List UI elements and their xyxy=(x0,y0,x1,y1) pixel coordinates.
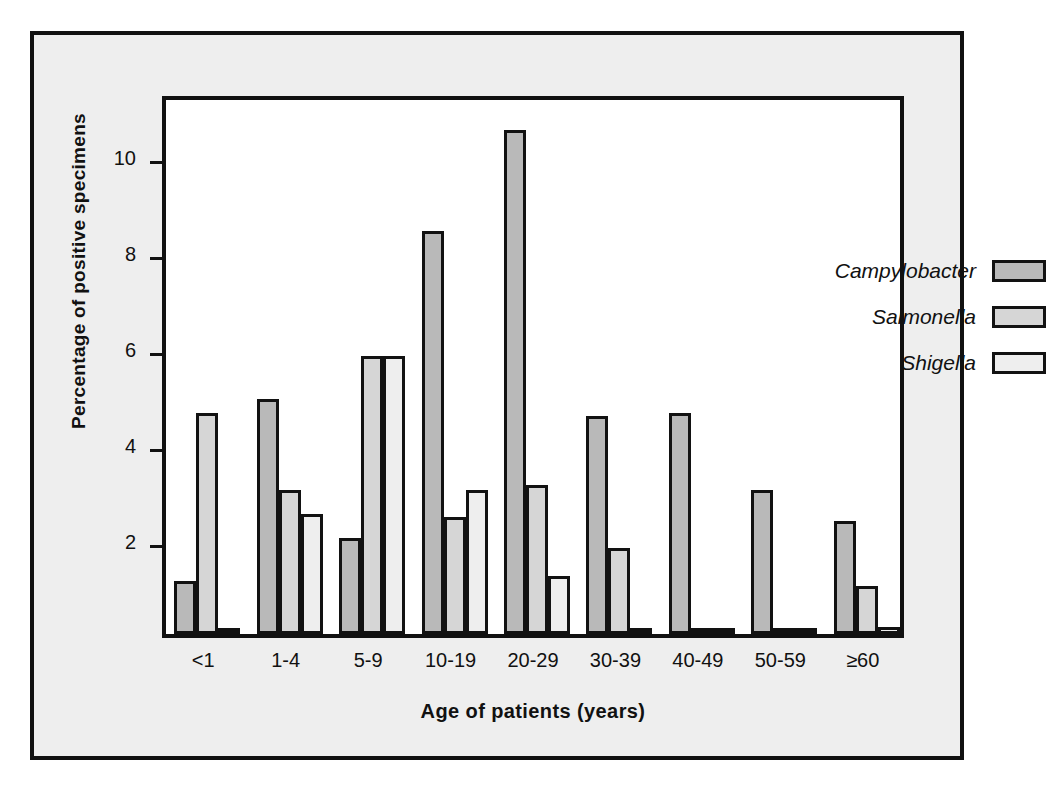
bar xyxy=(444,517,466,635)
legend-swatch xyxy=(992,260,1046,282)
bar xyxy=(257,399,279,634)
legend-swatch xyxy=(992,352,1046,374)
bar xyxy=(218,628,240,634)
bar xyxy=(526,485,548,634)
legend-item: Salmonella xyxy=(786,298,1046,336)
bar xyxy=(669,413,691,634)
bar xyxy=(713,628,735,634)
y-axis-tick xyxy=(150,161,166,164)
legend-swatch xyxy=(992,306,1046,328)
y-axis-tick xyxy=(150,545,166,548)
bar xyxy=(548,576,570,634)
x-axis-title: Age of patients (years) xyxy=(162,700,904,723)
y-axis-tick xyxy=(150,257,166,260)
x-axis-group-label: 20-29 xyxy=(492,650,574,670)
bar xyxy=(878,627,900,634)
bar xyxy=(466,490,488,634)
legend-item: Shigella xyxy=(786,344,1046,382)
x-axis-group-label: ≥60 xyxy=(822,650,904,670)
bar xyxy=(751,490,773,634)
bar xyxy=(691,628,713,634)
bar xyxy=(795,628,817,634)
chart-legend: CampylobacterSalmonellaShigella xyxy=(786,252,1046,390)
y-axis-title-text: Percentage of positive specimens xyxy=(68,113,90,429)
legend-item: Campylobacter xyxy=(786,252,1046,290)
bar xyxy=(608,548,630,634)
y-axis-tick-label: 4 xyxy=(90,436,136,456)
y-axis-tick-label: 10 xyxy=(90,148,136,168)
y-axis-tick xyxy=(150,353,166,356)
legend-item-label: Campylobacter xyxy=(835,259,976,283)
bar xyxy=(773,628,795,634)
y-axis-tick-label: 6 xyxy=(90,340,136,360)
x-axis-group-label: 30-39 xyxy=(574,650,656,670)
bar xyxy=(586,416,608,634)
bar xyxy=(361,356,383,634)
bar xyxy=(383,356,405,634)
bar xyxy=(339,538,361,634)
y-axis-title: Percentage of positive specimens xyxy=(62,0,96,542)
y-axis-tick-label: 8 xyxy=(90,244,136,264)
plot-area: CampylobacterSalmonellaShigella xyxy=(162,96,904,638)
x-axis-group-label: 40-49 xyxy=(657,650,739,670)
bar xyxy=(196,413,218,634)
bar xyxy=(174,581,196,634)
x-axis-group-label: 5-9 xyxy=(327,650,409,670)
legend-item-label: Salmonella xyxy=(872,305,976,329)
bar xyxy=(856,586,878,634)
y-axis-tick xyxy=(150,449,166,452)
legend-item-label: Shigella xyxy=(901,351,976,375)
bar xyxy=(301,514,323,634)
bar xyxy=(422,231,444,634)
bar xyxy=(279,490,301,634)
x-axis-group-label: <1 xyxy=(162,650,244,670)
x-axis-group-label: 10-19 xyxy=(409,650,491,670)
x-axis-group-label: 1-4 xyxy=(244,650,326,670)
y-axis-tick-label: 2 xyxy=(90,532,136,552)
bar xyxy=(504,130,526,634)
bar xyxy=(630,628,652,634)
bar xyxy=(834,521,856,634)
x-axis-group-label: 50-59 xyxy=(739,650,821,670)
